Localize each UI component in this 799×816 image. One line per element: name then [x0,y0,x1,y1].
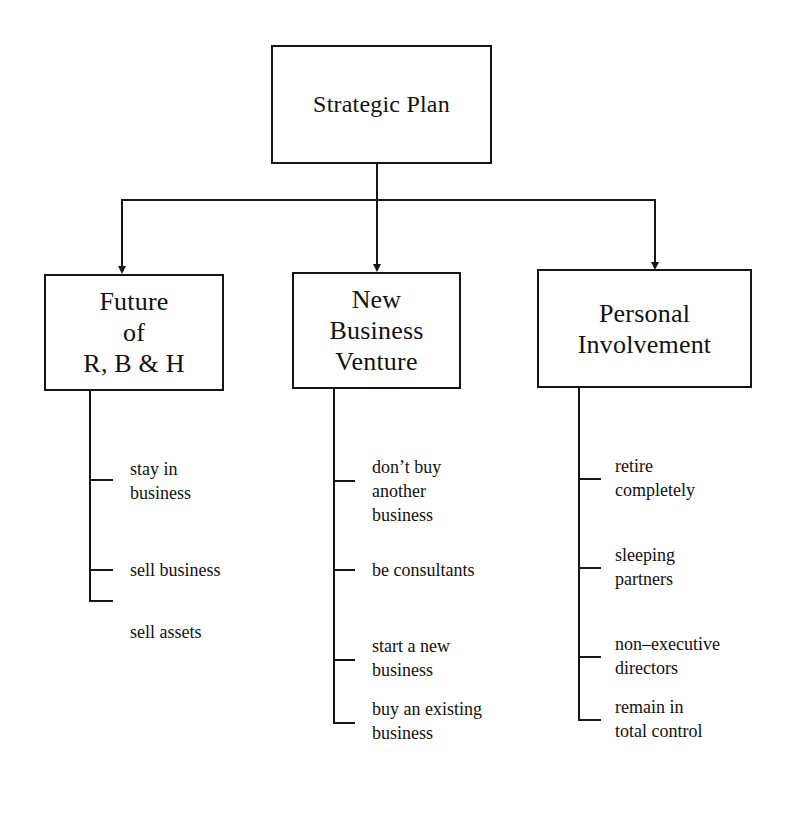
drop-connector-personal [654,199,656,262]
option-retire-completely: retire completely [615,454,695,502]
option-tick [89,479,113,481]
branch-node-label: Future of R, B & H [83,286,184,379]
branch-node-label: Personal Involvement [578,298,712,360]
option-stay-in-business: stay in business [130,457,191,505]
root-node-strategic-plan: Strategic Plan [271,45,492,164]
option-sell-assets: sell assets [130,620,202,644]
option-spine-new-venture [333,389,335,723]
root-stem-connector [376,163,378,200]
branch-node-future-of-rbh: Future of R, B & H [44,274,224,391]
option-tick [578,567,601,569]
root-node-label: Strategic Plan [313,89,450,120]
option-tick [89,600,113,602]
option-non-executive-directors: non–executive directors [615,632,720,680]
option-tick [578,719,601,721]
arrow-down-icon [373,264,381,272]
option-be-consultants: be consultants [372,558,474,582]
horizontal-branch-connector [121,199,656,201]
drop-connector-new-venture [376,199,378,264]
option-tick [333,722,355,724]
option-tick [333,480,355,482]
option-start-a-new-business: start a new business [372,634,450,682]
option-tick [578,478,601,480]
option-tick [578,656,601,658]
branch-node-new-business-venture: New Business Venture [292,272,461,389]
strategic-plan-diagram: Strategic Plan Future of R, B & H New Bu… [0,0,799,816]
option-tick [89,569,113,571]
option-buy-an-existing-business: buy an existing business [372,697,482,745]
arrow-down-icon [118,266,126,274]
option-dont-buy-another-business: don’t buy another business [372,455,441,527]
branch-node-label: New Business Venture [329,284,423,377]
option-sleeping-partners: sleeping partners [615,543,675,591]
drop-connector-future [121,199,123,266]
option-sell-business: sell business [130,558,221,582]
option-spine-personal [578,387,580,720]
option-tick [333,569,355,571]
branch-node-personal-involvement: Personal Involvement [537,269,752,388]
option-tick [333,659,355,661]
option-remain-in-total-control: remain in total control [615,695,702,743]
